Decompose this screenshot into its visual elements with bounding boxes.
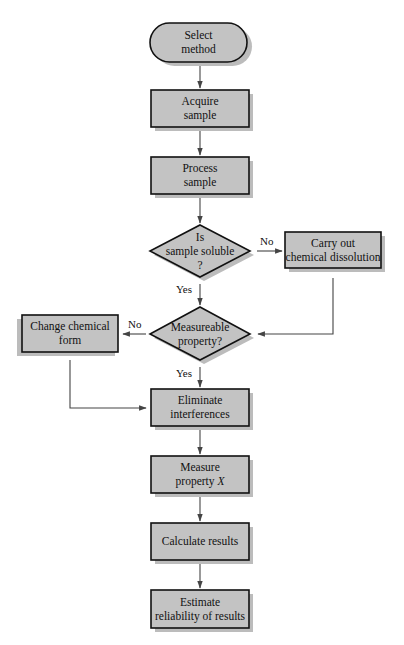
node-calculate-results: Calculate results <box>151 523 253 564</box>
node-process-sample: Process sample <box>151 157 253 198</box>
node-label: form <box>59 334 81 346</box>
node-carry-out-chemical-dissolution: Carry out chemical dissolution <box>285 232 385 272</box>
node-label: Estimate <box>180 596 220 608</box>
node-label: ? <box>197 259 202 271</box>
node-label: Acquire <box>181 95 218 108</box>
edge-label-yes-measurable: Yes <box>176 367 192 379</box>
node-label: Measure <box>180 461 220 473</box>
node-is-sample-soluble: Is sample soluble ? <box>150 225 254 281</box>
node-label: interferences <box>170 408 230 420</box>
node-acquire-sample: Acquire sample <box>151 90 253 131</box>
node-label: Eliminate <box>178 394 223 406</box>
node-label: Carry out <box>311 237 356 250</box>
node-label: sample <box>184 109 217 122</box>
node-change-chemical-form: Change chemical form <box>17 315 118 356</box>
node-label: sample <box>184 176 217 189</box>
node-label: reliability of results <box>155 610 246 623</box>
node-label: Select <box>184 29 213 41</box>
node-measure-property-x: Measure property X <box>151 456 253 497</box>
node-label: method <box>181 43 216 55</box>
node-label: Change chemical <box>30 320 110 333</box>
node-label: property X <box>176 475 226 488</box>
node-label: chemical dissolution <box>286 251 381 263</box>
node-label: Process <box>182 162 218 174</box>
node-label: Is <box>196 231 205 243</box>
node-label: Calculate results <box>162 535 239 547</box>
flowchart: No Yes No Yes Select method Acquire samp… <box>0 0 404 645</box>
node-estimate-reliability: Estimate reliability of results <box>151 590 253 632</box>
node-eliminate-interferences: Eliminate interferences <box>151 389 253 430</box>
edge-label-yes-soluble: Yes <box>176 283 192 295</box>
node-measureable-property: Measureable property? <box>150 307 254 364</box>
edge-label-no-soluble: No <box>260 235 274 247</box>
node-label: property? <box>178 335 222 348</box>
edge-label-no-measurable: No <box>128 318 142 330</box>
node-select-method: Select method <box>150 23 252 66</box>
edge-change-eliminate <box>70 360 146 408</box>
node-label: sample soluble <box>166 245 235 258</box>
edge-dissolve-measurable <box>258 278 333 334</box>
node-label: Measureable <box>171 321 230 333</box>
